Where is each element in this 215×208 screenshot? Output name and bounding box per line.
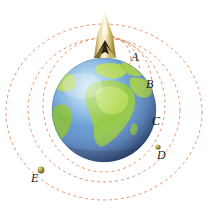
trajectory-label-b: B xyxy=(146,78,153,90)
trajectory-label-a: A xyxy=(131,51,138,63)
trajectory-label-e: E xyxy=(31,172,38,184)
satellite-e xyxy=(38,167,45,174)
earth-specular-highlight xyxy=(62,73,102,99)
orbit-diagram-figure: A B C D E xyxy=(0,0,215,208)
earth-globe xyxy=(49,58,158,166)
trajectory-label-c: C xyxy=(152,115,160,127)
rocket-launcher xyxy=(94,12,116,58)
trajectory-label-d: D xyxy=(157,149,166,161)
